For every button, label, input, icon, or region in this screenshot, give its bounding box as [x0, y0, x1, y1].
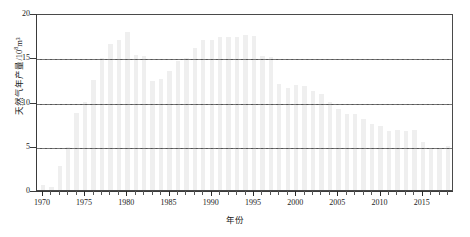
x-tick-minor	[354, 191, 355, 195]
bar	[277, 84, 281, 190]
x-tick-minor	[118, 191, 119, 195]
bar	[378, 126, 382, 190]
x-tick-minor	[219, 191, 220, 195]
y-axis-line	[36, 14, 37, 191]
bar	[74, 113, 78, 190]
bar	[361, 119, 365, 190]
x-tick-minor	[101, 191, 102, 195]
x-tick-minor	[202, 191, 203, 195]
x-tick-label: 2010	[372, 198, 388, 207]
bar	[446, 146, 450, 190]
x-tick-minor	[261, 191, 262, 195]
bar	[437, 149, 441, 190]
bar	[117, 40, 121, 190]
bar	[319, 94, 323, 190]
x-tick-major	[211, 191, 212, 196]
x-tick-minor	[245, 191, 246, 195]
bar	[49, 187, 53, 190]
x-tick-minor	[287, 191, 288, 195]
bar	[176, 61, 180, 190]
bar	[336, 109, 340, 190]
bar	[412, 130, 416, 190]
x-tick-minor	[135, 191, 136, 195]
x-tick-minor	[439, 191, 440, 195]
x-tick-label: 1990	[203, 198, 219, 207]
y-tick	[30, 14, 36, 15]
x-tick-minor	[304, 191, 305, 195]
x-tick-minor	[371, 191, 372, 195]
y-tick	[30, 147, 36, 148]
x-tick-label: 1975	[76, 198, 92, 207]
y-axis-title: 天然气年产量/108m³	[12, 6, 24, 146]
x-tick-minor	[152, 191, 153, 195]
bar	[193, 48, 197, 190]
bar	[387, 131, 391, 190]
x-tick-major	[42, 191, 43, 196]
bar	[210, 40, 214, 190]
bar	[41, 185, 45, 190]
y-tick	[30, 103, 36, 104]
x-tick-minor	[388, 191, 389, 195]
x-tick-minor	[447, 191, 448, 195]
bar	[91, 80, 95, 190]
x-tick-minor	[228, 191, 229, 195]
bar	[150, 81, 154, 190]
x-tick-label: 1985	[161, 198, 177, 207]
x-tick-minor	[346, 191, 347, 195]
x-tick-minor	[109, 191, 110, 195]
bar	[108, 44, 112, 190]
x-tick-label: 2000	[287, 198, 303, 207]
x-tick-minor	[93, 191, 94, 195]
bar	[83, 102, 87, 190]
x-tick-minor	[270, 191, 271, 195]
bar	[404, 131, 408, 190]
x-tick-minor	[363, 191, 364, 195]
bar	[201, 40, 205, 190]
y-axis-title-text: 天然气年产量/10	[14, 50, 24, 115]
y-axis-title-exponent: 8	[13, 47, 19, 50]
bar	[421, 142, 425, 190]
x-tick-minor	[278, 191, 279, 195]
bar	[125, 32, 129, 190]
x-tick-label: 2005	[329, 198, 345, 207]
y-tick-label: 0	[6, 187, 30, 195]
gridline-dashed	[37, 148, 452, 149]
bar	[184, 58, 188, 190]
x-tick-minor	[50, 191, 51, 195]
bar	[260, 56, 264, 190]
x-tick-minor	[143, 191, 144, 195]
bar	[311, 91, 315, 190]
x-tick-major	[84, 191, 85, 196]
y-axis-title-unit: m³	[14, 37, 24, 46]
x-tick-minor	[430, 191, 431, 195]
bar	[100, 58, 104, 190]
bar	[66, 147, 70, 190]
bar	[370, 124, 374, 190]
x-tick-major	[295, 191, 296, 196]
gridline-dashed	[37, 59, 452, 60]
x-tick-label: 1970	[34, 198, 50, 207]
x-tick-major	[126, 191, 127, 196]
x-tick-minor	[405, 191, 406, 195]
x-tick-minor	[76, 191, 77, 195]
x-tick-label: 1980	[118, 198, 134, 207]
chart-figure: 05101520 天然气年产量/108m³ 197019751980198519…	[0, 0, 470, 237]
x-axis-title: 年份	[0, 213, 470, 225]
x-tick-minor	[329, 191, 330, 195]
bar	[269, 57, 273, 190]
x-tick-minor	[194, 191, 195, 195]
plot-area	[36, 14, 453, 191]
x-tick-minor	[67, 191, 68, 195]
bar	[302, 86, 306, 190]
gridline-dashed	[37, 104, 452, 105]
y-tick	[30, 191, 36, 192]
bar	[134, 55, 138, 190]
bar	[353, 114, 357, 190]
bar	[142, 56, 146, 190]
x-tick-major	[169, 191, 170, 196]
x-tick-major	[422, 191, 423, 196]
bar	[167, 71, 171, 190]
bar	[294, 85, 298, 190]
bar	[58, 166, 62, 190]
x-tick-minor	[413, 191, 414, 195]
